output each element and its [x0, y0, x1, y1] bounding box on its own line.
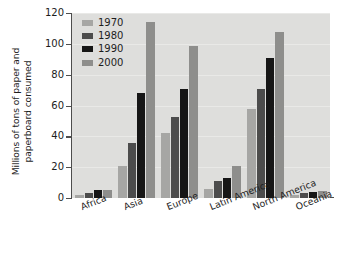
y-tick-mark [66, 136, 72, 137]
legend-swatch-icon [82, 46, 93, 52]
chart-figure: Millions of tons of paper and paperboard… [0, 0, 345, 261]
bar [75, 195, 84, 198]
bar [118, 166, 127, 198]
bar [128, 143, 137, 199]
bar [180, 89, 189, 198]
y-tick-label: 80 [24, 69, 64, 80]
y-tick-label: 120 [24, 7, 64, 18]
y-tick-label: 0 [24, 192, 64, 203]
y-tick-mark [66, 167, 72, 168]
legend-label: 1980 [98, 31, 123, 41]
bar [146, 22, 155, 198]
bar [137, 93, 146, 198]
bar [275, 32, 284, 199]
legend-label: 2000 [98, 58, 123, 68]
legend-label: 1970 [98, 18, 123, 28]
legend-label: 1990 [98, 44, 123, 54]
y-tick-mark [66, 13, 72, 14]
y-tick-mark [66, 198, 72, 199]
chart-legend: 1970198019902000 [82, 18, 123, 68]
legend-item: 1990 [82, 44, 123, 54]
bar [204, 189, 213, 198]
y-tick-label: 100 [24, 38, 64, 49]
legend-item: 1970 [82, 18, 123, 28]
y-tick-label: 60 [24, 100, 64, 111]
legend-item: 1980 [82, 31, 123, 41]
bar-group [158, 13, 201, 198]
y-tick-mark [66, 75, 72, 76]
bar [189, 46, 198, 198]
legend-item: 2000 [82, 58, 123, 68]
y-tick-mark [66, 106, 72, 107]
y-tick-mark [66, 44, 72, 45]
y-tick-label: 20 [24, 161, 64, 172]
legend-swatch-icon [82, 20, 93, 26]
bar-group [201, 13, 244, 198]
legend-swatch-icon [82, 33, 93, 39]
bar [171, 117, 180, 198]
legend-swatch-icon [82, 60, 93, 66]
bar-group [287, 13, 330, 198]
bar-group [244, 13, 287, 198]
y-tick-label: 40 [24, 130, 64, 141]
bar [161, 133, 170, 198]
